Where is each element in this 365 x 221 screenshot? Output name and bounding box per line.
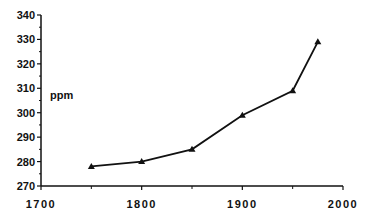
y-tick-label: 310: [17, 82, 35, 94]
y-tick-label: 340: [17, 9, 35, 21]
y-tick-label: 330: [17, 33, 35, 45]
line-chart: 270280290300310320330340 170018001900200…: [0, 0, 365, 221]
data-series: [88, 38, 322, 169]
y-tick-label: 280: [17, 156, 35, 168]
series-line: [91, 42, 318, 167]
x-tick-label: 1800: [126, 198, 156, 210]
y-tick-label: 290: [17, 131, 35, 143]
y-tick-label: 270: [17, 180, 35, 192]
y-tick-label: 300: [17, 107, 35, 119]
y-axis: 270280290300310320330340: [17, 9, 41, 192]
x-tick-label: 2000: [328, 198, 358, 210]
y-axis-label: ppm: [50, 89, 73, 101]
x-axis: 1700180019002000: [26, 186, 358, 210]
triangle-marker-icon: [314, 38, 321, 44]
x-tick-label: 1900: [227, 198, 257, 210]
triangle-marker-icon: [289, 87, 296, 93]
y-tick-label: 320: [17, 58, 35, 70]
x-tick-label: 1700: [26, 198, 56, 210]
